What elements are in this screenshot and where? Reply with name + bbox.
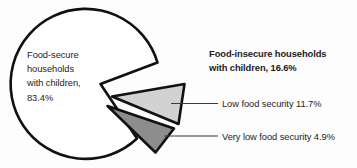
label-low-food-security: Low food security 11.7% [222,98,321,110]
label-food-insecure-heading: Food-insecure households with children, … [209,47,357,76]
label-food-secure: Food-secure households with children, 83… [27,48,113,105]
label-very-low-food-security: Very low food security 4.9% [222,131,335,143]
pie-chart-figure: Food-secure households with children, 83… [0,0,357,168]
